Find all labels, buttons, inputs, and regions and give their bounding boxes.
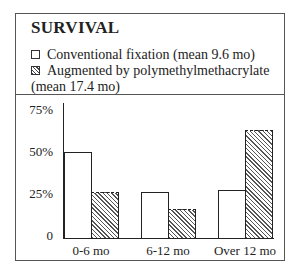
legend: Conventional fixation (mean 9.6 mo) Augm… xyxy=(31,47,269,95)
divider xyxy=(15,94,285,95)
hatched-square-icon xyxy=(31,66,40,75)
y-tick-label: 50% xyxy=(29,144,53,160)
x-tick-label: 0-6 mo xyxy=(72,243,109,259)
y-tick-label: 25% xyxy=(29,186,53,202)
x-tick-label: 6-12 mo xyxy=(146,243,190,259)
bar-augmented xyxy=(168,209,196,239)
legend-label: Conventional fixation (mean 9.6 mo) xyxy=(47,47,255,63)
bar-augmented xyxy=(245,130,273,239)
y-tick-label: 75% xyxy=(29,102,53,118)
legend-item-conventional: Conventional fixation (mean 9.6 mo) xyxy=(31,47,269,63)
legend-label-continued: (mean 17.4 mo) xyxy=(31,79,269,95)
bar-conventional xyxy=(64,152,92,239)
chart-title: SURVIVAL xyxy=(31,18,119,38)
bar-conventional xyxy=(218,190,246,239)
white-square-icon xyxy=(31,50,40,59)
bar-conventional xyxy=(141,192,169,239)
x-tick-label: Over 12 mo xyxy=(214,243,276,259)
y-tick-label: 0 xyxy=(47,228,54,244)
legend-label: Augmented by polymethylmethacrylate xyxy=(47,63,269,79)
bar-augmented xyxy=(91,192,119,239)
legend-item-augmented: Augmented by polymethylmethacrylate xyxy=(31,63,269,79)
